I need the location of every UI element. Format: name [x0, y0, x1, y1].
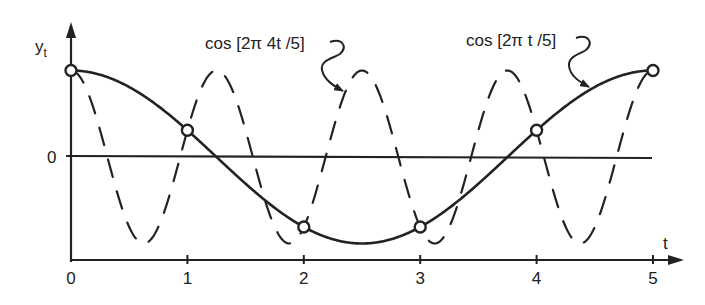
x-tick-label: 5	[648, 269, 657, 288]
fast-curve-pointer-arrow	[322, 41, 344, 91]
x-axis-label: t	[663, 234, 668, 253]
sample-point-circle	[648, 65, 659, 76]
y-axis-label: yt	[35, 37, 48, 60]
x-tick-label: 2	[299, 269, 308, 288]
x-tick-label: 0	[66, 269, 75, 288]
y-axis	[66, 22, 76, 262]
sample-point-circle	[298, 221, 309, 232]
x-tick-label: 1	[183, 269, 192, 288]
sample-point-circle	[182, 125, 193, 136]
x-tick-label: 3	[415, 269, 424, 288]
zero-label: 0	[47, 148, 56, 167]
x-tick-label: 4	[532, 269, 541, 288]
fast-curve-label: cos [2π 4t /5]	[205, 34, 305, 53]
sample-point-circle	[66, 65, 77, 76]
sample-points	[66, 65, 659, 232]
x-axis: 012345	[66, 255, 684, 288]
slow-curve-pointer-arrow	[569, 37, 590, 87]
sample-point-circle	[415, 221, 426, 232]
slow-curve-label: cos [2π t /5]	[466, 31, 556, 50]
sample-point-circle	[531, 125, 542, 136]
zero-line	[66, 156, 652, 158]
x-axis-arrow-icon	[668, 255, 684, 265]
y-axis-arrow-icon	[66, 22, 76, 38]
aliasing-chart: 012345 yt 0 t cos [2π 4t /5] cos [2π t /…	[0, 0, 705, 305]
